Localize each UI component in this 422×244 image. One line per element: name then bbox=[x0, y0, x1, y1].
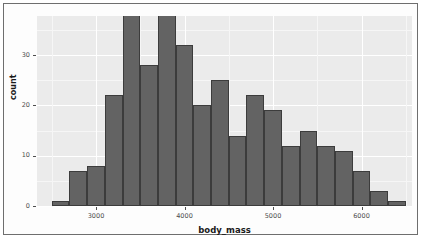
histogram-bar bbox=[282, 146, 300, 206]
gridline-vertical-minor bbox=[406, 16, 407, 207]
y-axis-title: count bbox=[10, 75, 18, 100]
x-tick-label: 4000 bbox=[176, 213, 193, 220]
histogram-bar bbox=[246, 95, 264, 206]
plot-panel bbox=[37, 16, 412, 207]
histogram-bar bbox=[176, 45, 194, 206]
x-tick-mark bbox=[273, 207, 274, 210]
x-tick-label: 5000 bbox=[265, 213, 282, 220]
histogram-bar bbox=[140, 65, 158, 206]
histogram-bar bbox=[388, 201, 406, 206]
histogram-bar bbox=[105, 95, 123, 206]
histogram-bar bbox=[193, 105, 211, 206]
gridline-horizontal-major bbox=[37, 206, 412, 207]
y-tick-mark bbox=[33, 105, 36, 106]
gridline-vertical-minor bbox=[52, 16, 53, 207]
histogram-bar bbox=[87, 166, 105, 206]
histogram-screenshot: 0102030 3000400050006000 body_mass count bbox=[0, 0, 422, 244]
x-tick-mark bbox=[96, 207, 97, 210]
histogram-bar bbox=[264, 110, 282, 206]
gridline-horizontal-major bbox=[37, 55, 412, 56]
y-tick-label: 20 bbox=[8, 102, 30, 109]
histogram-bar bbox=[229, 136, 247, 206]
gridline-horizontal-minor bbox=[37, 30, 412, 31]
y-tick-mark bbox=[33, 55, 36, 56]
x-tick-mark bbox=[362, 207, 363, 210]
histogram-bar bbox=[353, 171, 371, 206]
x-tick-label: 3000 bbox=[88, 213, 105, 220]
histogram-bar bbox=[211, 80, 229, 206]
y-tick-label: 10 bbox=[8, 152, 30, 159]
y-tick-label: 0 bbox=[8, 203, 30, 210]
y-tick-mark bbox=[33, 156, 36, 157]
histogram-bar bbox=[123, 16, 141, 206]
x-axis-title: body_mass bbox=[37, 226, 412, 235]
histogram-bar bbox=[335, 151, 353, 206]
x-tick-mark bbox=[185, 207, 186, 210]
histogram-bar bbox=[52, 201, 70, 206]
histogram-bar bbox=[317, 146, 335, 206]
x-tick-label: 6000 bbox=[353, 213, 370, 220]
figure-inner: 0102030 3000400050006000 body_mass count bbox=[4, 4, 417, 234]
figure-frame: 0102030 3000400050006000 body_mass count bbox=[3, 3, 418, 235]
histogram-bar bbox=[69, 171, 87, 206]
y-tick-mark bbox=[33, 206, 36, 207]
histogram-bar bbox=[300, 131, 318, 206]
histogram-bar bbox=[370, 191, 388, 206]
histogram-bar bbox=[158, 16, 176, 206]
y-tick-label: 30 bbox=[8, 52, 30, 59]
